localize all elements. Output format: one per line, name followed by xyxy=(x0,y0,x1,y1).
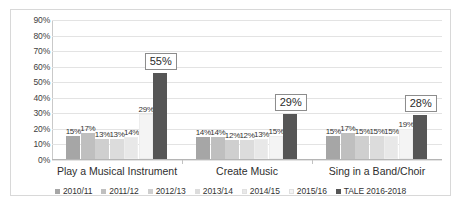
bar[interactable] xyxy=(211,137,225,159)
legend-label: TALE 2016-2018 xyxy=(344,186,406,196)
category-label: Play a Musical Instrument xyxy=(57,165,177,177)
bar[interactable] xyxy=(225,140,239,159)
bar-value-label: 29% xyxy=(139,105,154,114)
legend-swatch-icon xyxy=(101,189,106,194)
legend-swatch-icon xyxy=(148,189,153,194)
plot-wrapper: 0%10%20%30%40%50%60%70%80%90% 15%17%13%1… xyxy=(11,10,450,195)
bar[interactable] xyxy=(139,114,153,159)
bar[interactable] xyxy=(254,139,268,159)
bar[interactable] xyxy=(95,139,109,159)
category-tick xyxy=(182,160,183,164)
bar-value-label: 13% xyxy=(109,130,124,139)
bar[interactable] xyxy=(384,136,398,159)
legend-label: 2013/14 xyxy=(203,186,233,196)
legend-item[interactable]: TALE 2016-2018 xyxy=(336,186,406,196)
y-axis-tick-label: 90% xyxy=(34,15,50,25)
category-label: Create Music xyxy=(216,165,278,177)
bar[interactable] xyxy=(341,133,355,159)
highlight-value-label: 28% xyxy=(405,95,437,112)
bar-value-label: 14% xyxy=(124,128,139,137)
bar-value-label: 17% xyxy=(340,124,355,133)
bar-value-label: 15% xyxy=(326,127,341,136)
plot-area: 15%17%13%13%14%29%55%14%14%12%12%13%15%2… xyxy=(52,20,442,160)
bar-value-label: 17% xyxy=(80,124,95,133)
highlight-value-label: 55% xyxy=(145,53,177,70)
bar-value-label: 14% xyxy=(196,128,211,137)
legend-item[interactable]: 2015/16 xyxy=(289,186,327,196)
legend-item[interactable]: 2012/13 xyxy=(148,186,186,196)
chart-legend: 2010/112011/122012/132013/142014/152015/… xyxy=(11,184,450,198)
y-axis-tick-label: 10% xyxy=(34,139,50,149)
bar[interactable] xyxy=(370,136,384,159)
bar-value-label: 14% xyxy=(210,128,225,137)
bar-value-label: 13% xyxy=(254,130,269,139)
bar-value-label: 15% xyxy=(384,127,399,136)
bar[interactable] xyxy=(81,133,95,159)
legend-label: 2010/11 xyxy=(63,186,92,196)
y-axis-tick-label: 40% xyxy=(34,93,50,103)
legend-swatch-icon xyxy=(289,189,294,194)
y-axis-tick-label: 70% xyxy=(34,46,50,56)
bar[interactable] xyxy=(124,137,138,159)
legend-item[interactable]: 2013/14 xyxy=(195,186,233,196)
category-axis-labels: Play a Musical InstrumentCreate MusicSin… xyxy=(52,165,442,181)
highlight-value-label: 29% xyxy=(275,94,307,111)
legend-label: 2011/12 xyxy=(109,186,138,196)
bar[interactable] xyxy=(66,136,80,159)
bar[interactable] xyxy=(413,115,427,159)
legend-item[interactable]: 2014/15 xyxy=(242,186,280,196)
y-axis-tick-label: 60% xyxy=(34,62,50,72)
chart-container: 0%10%20%30%40%50%60%70%80%90% 15%17%13%1… xyxy=(10,9,451,196)
bar-value-label: 13% xyxy=(95,130,110,139)
category-label: Sing in a Band/Choir xyxy=(329,165,425,177)
bar-value-label: 15% xyxy=(66,127,81,136)
bar[interactable] xyxy=(399,129,413,159)
y-axis-tick-label: 80% xyxy=(34,31,50,41)
bar-value-label: 15% xyxy=(355,127,370,136)
y-axis: 0%10%20%30%40%50%60%70%80%90% xyxy=(17,20,50,160)
legend-label: 2014/15 xyxy=(250,186,280,196)
bar-group: 15%17%15%15%15%19%28% xyxy=(312,20,442,160)
y-axis-tick-label: 20% xyxy=(34,124,50,134)
bar-value-label: 15% xyxy=(369,127,384,136)
legend-label: 2012/13 xyxy=(156,186,186,196)
bar[interactable] xyxy=(240,140,254,159)
legend-swatch-icon xyxy=(195,189,200,194)
y-axis-tick-label: 0% xyxy=(38,155,50,165)
y-axis-tick-label: 30% xyxy=(34,108,50,118)
legend-item[interactable]: 2010/11 xyxy=(55,186,92,196)
bar-value-label: 12% xyxy=(239,131,254,140)
bar-value-label: 15% xyxy=(269,127,284,136)
legend-swatch-icon xyxy=(242,189,247,194)
category-tick xyxy=(312,160,313,164)
gridline xyxy=(52,160,442,161)
bar-group: 14%14%12%12%13%15%29% xyxy=(182,20,312,160)
bar[interactable] xyxy=(283,114,297,159)
bar[interactable] xyxy=(269,136,283,159)
bar[interactable] xyxy=(196,137,210,159)
legend-item[interactable]: 2011/12 xyxy=(101,186,138,196)
bar-value-label: 19% xyxy=(399,120,414,129)
bar[interactable] xyxy=(153,73,167,159)
y-axis-tick-label: 50% xyxy=(34,77,50,87)
bar-group: 15%17%13%13%14%29%55% xyxy=(52,20,182,160)
bar-value-label: 12% xyxy=(225,131,240,140)
bar[interactable] xyxy=(355,136,369,159)
bar[interactable] xyxy=(326,136,340,159)
bar[interactable] xyxy=(110,139,124,159)
legend-label: 2015/16 xyxy=(297,186,327,196)
legend-swatch-icon xyxy=(55,189,60,194)
legend-swatch-icon xyxy=(336,189,341,194)
